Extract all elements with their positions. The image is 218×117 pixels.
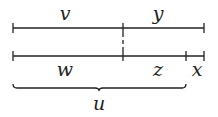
segment-diagram: v y w z x u (0, 0, 218, 117)
label-y: y (152, 2, 164, 24)
brace (13, 84, 186, 91)
label-v: v (60, 2, 71, 24)
label-w: w (57, 58, 73, 80)
label-u: u (93, 92, 105, 114)
label-x: x (192, 58, 203, 80)
label-z: z (152, 58, 164, 80)
